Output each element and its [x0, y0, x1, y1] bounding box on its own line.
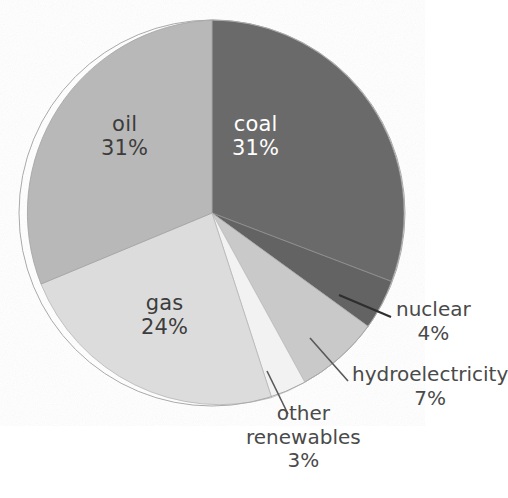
slice-label-gas: gas 24% — [141, 291, 188, 340]
callout-label-other-renewables-value: 3% — [246, 449, 361, 473]
slice-label-coal: coal 31% — [232, 112, 279, 161]
callout-label-other-renewables-name-line2: renewables — [246, 426, 361, 450]
slice-label-gas-name: gas — [141, 291, 188, 315]
callout-label-other-renewables: other renewables 3% — [246, 402, 361, 473]
callout-label-hydroelectricity-value: 7% — [352, 387, 508, 411]
callout-label-hydroelectricity: hydroelectricity 7% — [352, 363, 508, 410]
slice-label-coal-value: 31% — [232, 136, 279, 160]
slice-label-coal-name: coal — [232, 112, 279, 136]
slice-label-oil: oil 31% — [101, 112, 148, 161]
callout-label-nuclear-value: 4% — [396, 322, 471, 346]
callout-label-other-renewables-name-line1: other — [246, 402, 361, 426]
callout-label-nuclear-name: nuclear — [396, 298, 471, 322]
slice-label-oil-value: 31% — [101, 136, 148, 160]
callout-label-hydroelectricity-name: hydroelectricity — [352, 363, 508, 387]
slice-label-gas-value: 24% — [141, 315, 188, 339]
slice-label-oil-name: oil — [101, 112, 148, 136]
callout-label-nuclear: nuclear 4% — [396, 298, 471, 345]
